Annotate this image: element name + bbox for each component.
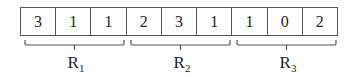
group-label-r1: R1 xyxy=(68,53,85,74)
group-label-r3: R3 xyxy=(280,53,297,74)
bracket-r1 xyxy=(25,40,124,50)
bracket-r2 xyxy=(131,40,230,50)
bracket-r3 xyxy=(237,40,336,50)
group-label-r2: R2 xyxy=(174,53,191,74)
